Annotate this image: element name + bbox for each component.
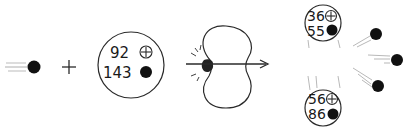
incoming-neutron xyxy=(5,61,41,74)
plus-icon xyxy=(62,60,76,74)
released-neutron-3 xyxy=(353,68,384,92)
target-neutrons: 143 xyxy=(103,64,132,82)
deformed-nucleus xyxy=(186,26,268,108)
fragment-bottom-protons: 56 xyxy=(308,91,326,107)
released-neutron-1 xyxy=(353,28,382,47)
target-protons: 92 xyxy=(110,44,129,62)
fragment-top-neutrons: 55 xyxy=(307,23,325,39)
released-neutron-2 xyxy=(368,54,403,66)
fragment-top-protons: 36 xyxy=(307,8,325,24)
fission-diagram: 92 143 36 55 56 86 xyxy=(0,0,409,132)
fragment-bottom-neutrons: 86 xyxy=(308,106,326,122)
